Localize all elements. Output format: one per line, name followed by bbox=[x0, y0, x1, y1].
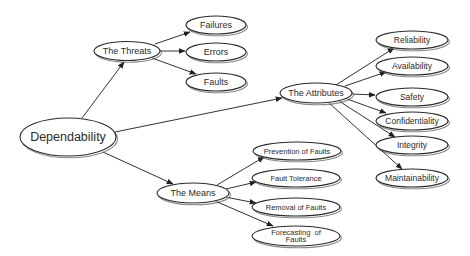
node-label: Reliability bbox=[394, 35, 431, 45]
node-errors: Errors bbox=[186, 43, 248, 63]
edge-dependability-to-attributes bbox=[115, 98, 282, 132]
node-label: Fault Tolerance bbox=[270, 174, 321, 183]
node-label: The Attributes bbox=[288, 88, 344, 98]
node-threats: The Threats bbox=[94, 42, 162, 63]
node-label: Dependability bbox=[30, 130, 106, 144]
node-failures: Failures bbox=[186, 16, 248, 36]
node-label: Maintainability bbox=[385, 173, 440, 183]
node-faults: Faults bbox=[186, 73, 248, 93]
node-maintainability: Maintainability bbox=[376, 169, 450, 189]
node-prevention: Prevention of Faults bbox=[253, 142, 343, 162]
node-label: Removal of Faults bbox=[266, 203, 327, 212]
node-label: Confidentiality bbox=[385, 116, 439, 126]
dependability-concept-map: DependabilityThe ThreatsFailuresErrorsFa… bbox=[0, 0, 470, 256]
edge-means-to-tolerance bbox=[226, 182, 256, 189]
node-reliability: Reliability bbox=[376, 31, 450, 51]
node-label: The Means bbox=[170, 188, 216, 198]
edge-means-to-removal bbox=[225, 197, 256, 203]
node-label: Faults bbox=[286, 235, 307, 244]
node-label: Failures bbox=[200, 20, 233, 30]
edge-attributes-to-safety bbox=[352, 94, 375, 95]
node-availability: Availability bbox=[376, 57, 450, 77]
node-attributes: The Attributes bbox=[280, 83, 354, 105]
edge-attributes-to-maintainability bbox=[328, 102, 402, 169]
node-dependability: Dependability bbox=[20, 118, 118, 158]
node-label: Errors bbox=[204, 47, 229, 57]
node-forecasting: Forecasting ofFaults bbox=[252, 226, 342, 248]
edge-dependability-to-threats bbox=[82, 62, 124, 118]
node-confidentiality: Confidentiality bbox=[376, 112, 450, 132]
edge-attributes-to-availability bbox=[345, 72, 386, 86]
node-tolerance: Fault Tolerance bbox=[252, 169, 342, 189]
node-means: The Means bbox=[157, 183, 231, 205]
node-safety: Safety bbox=[376, 88, 450, 108]
node-label: The Threats bbox=[103, 46, 152, 56]
node-label: Availability bbox=[392, 61, 433, 71]
edge-dependability-to-means bbox=[103, 152, 173, 184]
edge-threats-to-failures bbox=[155, 32, 190, 44]
node-label: Safety bbox=[400, 92, 425, 102]
node-removal: Removal of Faults bbox=[252, 198, 342, 218]
node-label: Prevention of Faults bbox=[264, 147, 331, 156]
node-integrity: Integrity bbox=[376, 136, 450, 156]
node-label: Faults bbox=[204, 77, 229, 87]
node-label: Integrity bbox=[397, 140, 428, 150]
edge-threats-to-faults bbox=[152, 58, 196, 74]
nodes-layer: DependabilityThe ThreatsFailuresErrorsFa… bbox=[20, 16, 450, 248]
